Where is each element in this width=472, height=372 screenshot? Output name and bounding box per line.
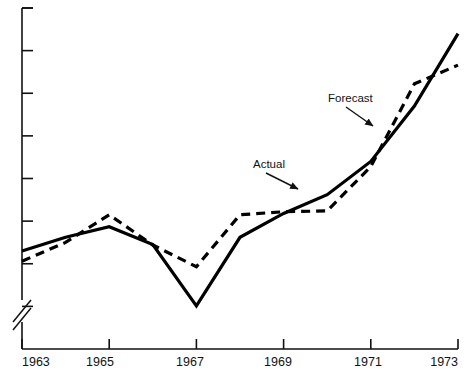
x-tick-label-1973: 1973 (430, 355, 458, 369)
annotation-forecast: Forecast (328, 92, 374, 126)
annotation-label-actual: Actual (253, 158, 285, 170)
annotation-arrow-actual (266, 173, 298, 189)
annotation-actual: Actual (253, 158, 298, 189)
x-axis-ticks (22, 339, 458, 349)
series-line-actual (22, 34, 458, 306)
x-tick-label-1963: 1963 (22, 355, 50, 369)
annotation-arrow-forecast (346, 107, 373, 126)
chart-container: 196319651967196919711973 ActualForecast (0, 0, 472, 372)
y-axis (13, 8, 33, 349)
x-axis-tick-labels: 196319651967196919711973 (22, 355, 458, 369)
annotation-label-forecast: Forecast (328, 92, 374, 104)
x-axis: 196319651967196919711973 (22, 339, 458, 369)
line-chart: 196319651967196919711973 ActualForecast (0, 0, 472, 372)
x-tick-label-1967: 1967 (176, 355, 204, 369)
series-layer (22, 34, 458, 306)
x-tick-label-1971: 1971 (354, 355, 382, 369)
x-tick-label-1965: 1965 (86, 355, 114, 369)
x-tick-label-1969: 1969 (264, 355, 292, 369)
